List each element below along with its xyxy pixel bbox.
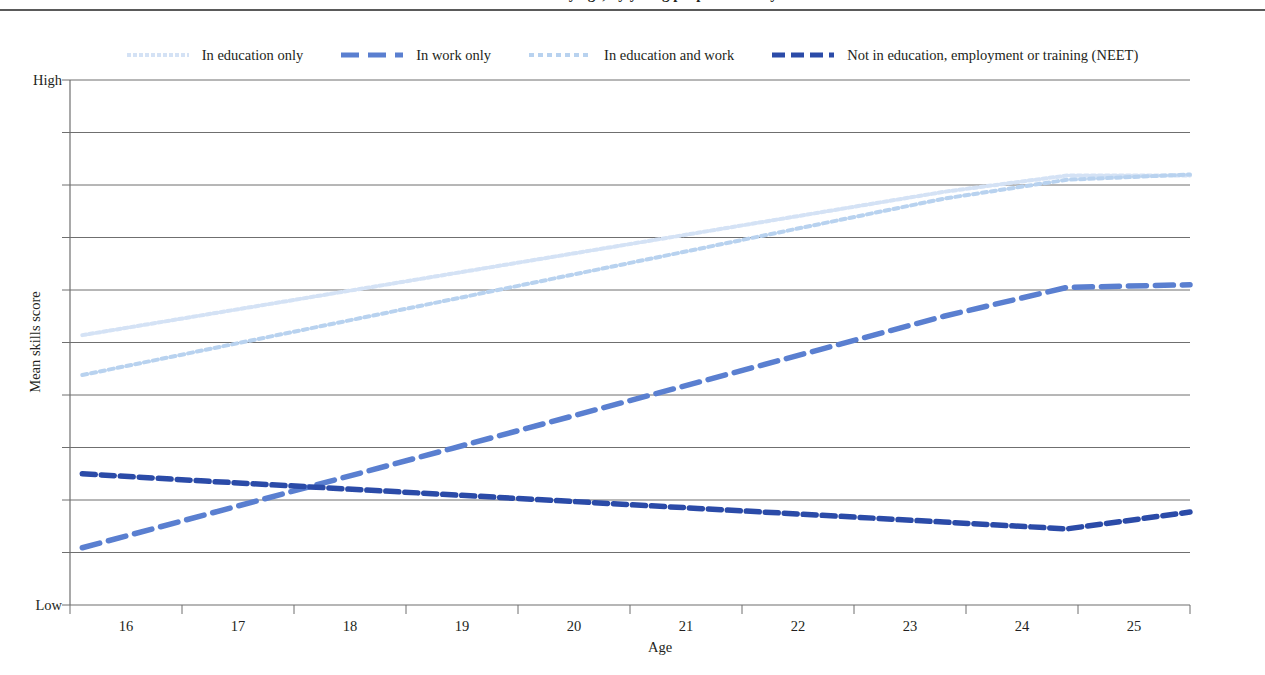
x-axis-tick-label: 21 [679,618,694,634]
series-line-in-work-only [82,285,1190,548]
y-axis-title: Mean skills score [27,291,43,392]
x-axis-tick-label: 16 [119,618,134,634]
x-axis-ticks [70,605,1190,614]
x-axis-tick-label: 19 [455,618,470,634]
series-line-in-education-and-work [82,175,1190,376]
x-axis-tick-labels: 16171819202122232425 [119,618,1142,634]
series-lines [82,175,1190,548]
x-axis-tick-label: 17 [231,618,246,634]
x-axis-tick-label: 25 [1127,618,1142,634]
x-axis-tick-label: 18 [343,618,358,634]
x-axis-tick-label: 20 [567,618,582,634]
y-axis-top-label: High [33,72,63,88]
y-axis-bottom-label: Low [35,597,62,613]
series-line-in-education-only [82,176,1190,336]
x-axis-tick-label: 23 [903,618,918,634]
x-axis-tick-label: 24 [1015,618,1030,634]
line-chart: 16171819202122232425 High Low Mean skill… [0,0,1265,675]
chart-area: 16171819202122232425 High Low Mean skill… [0,0,1265,675]
x-axis-tick-label: 22 [791,618,806,634]
y-axis-ticks [62,80,70,605]
x-axis-title: Age [648,639,672,655]
